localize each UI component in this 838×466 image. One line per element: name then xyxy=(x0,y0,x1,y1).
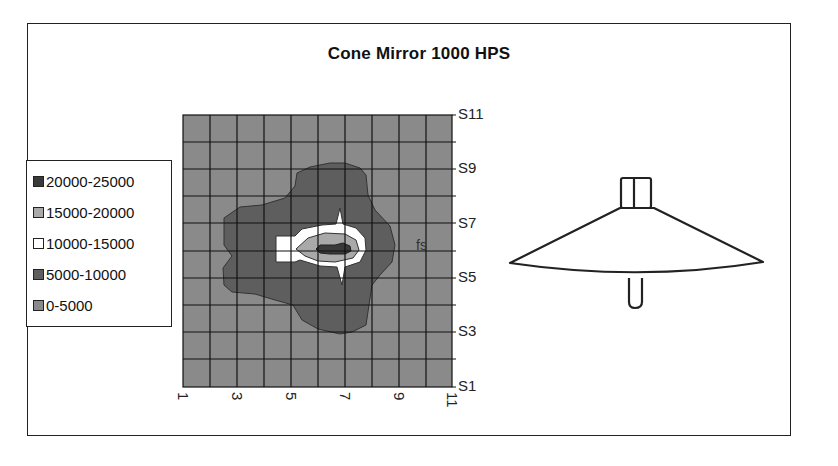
y-tick-label: S5 xyxy=(458,268,476,285)
x-tick-label: 7 xyxy=(337,392,354,400)
y-tick-label: S9 xyxy=(458,159,476,176)
legend-item: 15000-20000 xyxy=(33,203,134,221)
legend-swatch-20000-25000 xyxy=(33,176,44,187)
legend-swatch-5000-10000 xyxy=(33,269,44,280)
x-tick-label: 1 xyxy=(175,392,192,400)
cone-mirror-illustration xyxy=(510,178,763,308)
x-tick-label: 3 xyxy=(229,392,246,400)
y-tick-label: S11 xyxy=(458,105,484,122)
legend-item: 10000-15000 xyxy=(33,234,134,252)
legend-swatch-0-5000 xyxy=(33,300,44,311)
legend-label: 10000-15000 xyxy=(46,235,134,252)
legend-label: 20000-25000 xyxy=(46,173,134,190)
legend-swatch-15000-20000 xyxy=(33,207,44,218)
x-tick-label: 11 xyxy=(444,392,461,408)
region-20000-25000 xyxy=(316,243,351,254)
legend-item: 20000-25000 xyxy=(33,172,134,190)
legend-item: 5000-10000 xyxy=(33,265,126,283)
y-tick-label: S3 xyxy=(458,322,476,339)
x-tick-label: 5 xyxy=(283,392,300,400)
legend: 20000-25000 15000-20000 10000-15000 5000… xyxy=(26,160,172,327)
legend-item: 0-5000 xyxy=(33,296,93,314)
x-tick-label: 9 xyxy=(391,392,408,400)
legend-label: 15000-20000 xyxy=(46,204,134,221)
legend-label: 0-5000 xyxy=(46,297,93,314)
fs-annotation: fs xyxy=(416,237,427,253)
y-tick-label: S7 xyxy=(458,214,476,231)
legend-swatch-10000-15000 xyxy=(33,238,44,249)
legend-label: 5000-10000 xyxy=(46,266,126,283)
